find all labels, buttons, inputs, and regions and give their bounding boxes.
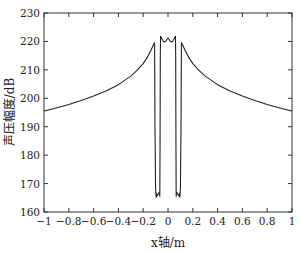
y-axis-label: 声压幅度/dB <box>2 78 17 147</box>
y-axis-tick-labels: 160170180190200210220230 <box>20 7 40 218</box>
x-tick-label: 0.4 <box>209 215 226 227</box>
x-tick-label: −0.8 <box>56 215 82 227</box>
y-tick-label: 170 <box>20 178 40 190</box>
x-axis-label: x轴/m <box>151 235 186 250</box>
x-axis-tick-labels: −1−0.8−0.6−0.4−0.200.20.40.60.81 <box>36 215 295 227</box>
y-tick-label: 180 <box>20 149 40 161</box>
x-tick-label: 1 <box>289 215 296 227</box>
y-tick-label: 230 <box>20 7 40 19</box>
x-tick-label: −0.6 <box>81 215 107 227</box>
x-tick-label: −0.2 <box>130 215 156 227</box>
plot-frame <box>44 13 292 212</box>
x-tick-label: −0.4 <box>106 215 132 227</box>
y-tick-label: 160 <box>20 206 40 218</box>
y-tick-label: 190 <box>20 121 40 133</box>
plot-axes <box>44 13 292 212</box>
chart-canvas: −1−0.8−0.6−0.4−0.200.20.40.60.81 1601701… <box>0 0 300 253</box>
y-tick-label: 220 <box>20 35 40 47</box>
x-tick-label: 0.8 <box>259 215 276 227</box>
x-tick-label: 0.6 <box>234 215 251 227</box>
y-tick-label: 210 <box>20 64 40 76</box>
x-tick-label: 0.2 <box>184 215 201 227</box>
y-tick-label: 200 <box>20 92 40 104</box>
x-tick-label: 0 <box>165 215 172 227</box>
data-series-line <box>44 36 292 197</box>
line-chart: −1−0.8−0.6−0.4−0.200.20.40.60.81 1601701… <box>0 0 300 253</box>
